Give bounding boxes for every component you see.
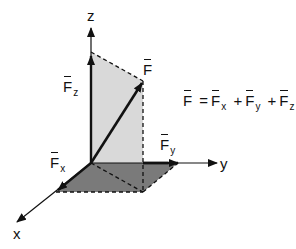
eq-term-3: F: [279, 93, 288, 108]
eq-term-3-sub: z: [290, 101, 295, 112]
fy-label: Fy: [160, 137, 175, 152]
fy-subscript: y: [170, 145, 175, 156]
fz-label: Fz: [63, 79, 78, 94]
x-axis-label: x: [13, 226, 21, 241]
y-axis-label: y: [220, 156, 228, 171]
f-symbol: F: [143, 62, 152, 77]
eq-term-1-sub: x: [221, 101, 226, 112]
fx-label: Fx: [50, 155, 65, 170]
fy-symbol: F: [160, 137, 169, 152]
vector-diagram: [0, 0, 296, 249]
z-axis-label: z: [87, 8, 95, 23]
vector-sum-equation: F =Fx +Fy +Fz: [183, 93, 295, 108]
eq-lhs: F: [183, 93, 192, 108]
eq-term-2-sub: y: [255, 101, 260, 112]
eq-plus-1: +: [233, 92, 242, 109]
eq-equals: =: [199, 92, 208, 109]
fx-subscript: x: [60, 163, 65, 174]
eq-term-2: F: [245, 93, 254, 108]
eq-term-1: F: [211, 93, 220, 108]
fz-symbol: F: [63, 79, 72, 94]
f-label: F: [143, 62, 152, 77]
fx-symbol: F: [50, 155, 59, 170]
eq-plus-2: +: [268, 92, 277, 109]
fz-subscript: z: [73, 87, 78, 98]
